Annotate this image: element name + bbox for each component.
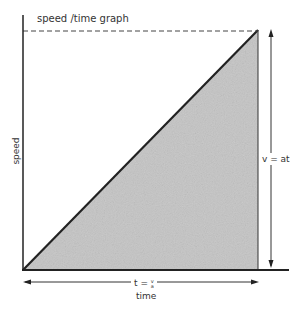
time-formula-fraction: va — [151, 279, 154, 289]
graph-title: speed /time graph — [37, 13, 129, 24]
fraction-denominator: a — [151, 283, 154, 289]
time-formula-label: t = va — [131, 278, 157, 289]
velocity-dimension-arrow — [269, 29, 274, 268]
y-axis-label: speed — [11, 137, 21, 164]
speed-time-graph — [0, 0, 295, 310]
velocity-label: v = at — [262, 153, 290, 165]
time-formula-prefix: t = — [134, 278, 151, 288]
x-axis-label: time — [136, 291, 156, 301]
